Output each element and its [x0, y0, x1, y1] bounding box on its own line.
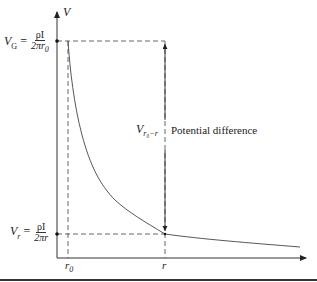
y-axis-label: V	[63, 5, 70, 20]
bottom-rule	[0, 279, 317, 281]
potential-difference-text: Potential difference	[171, 124, 257, 136]
potential-curve	[68, 41, 300, 247]
vg-label: VG = ρI 2πr0	[4, 30, 50, 55]
tick-r0: r0	[65, 259, 73, 274]
potential-difference-label: Vr₀−r	[136, 122, 158, 138]
r-point	[164, 233, 166, 235]
vg-point	[55, 39, 59, 43]
tick-r: r	[162, 259, 166, 271]
vr-point	[55, 232, 59, 236]
vr-label: Vr = ρI 2πr	[10, 222, 49, 243]
